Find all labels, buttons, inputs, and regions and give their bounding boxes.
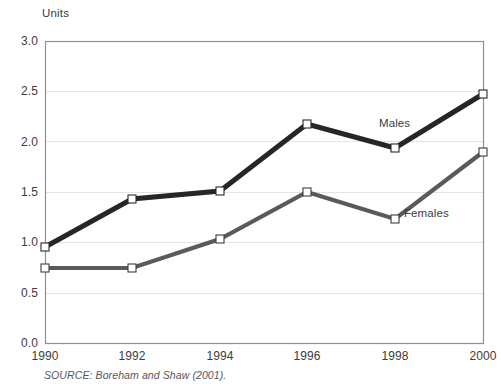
line-chart: Units 3.0 2.5 2.0 1.5 1.0 0.5 0.0	[0, 0, 501, 388]
x-tick-label-1996: 1996	[282, 349, 332, 363]
x-tick-label-1992: 1992	[107, 349, 157, 363]
gridlines	[46, 92, 484, 294]
series-label-males: Males	[379, 117, 410, 129]
x-tick-label-1994: 1994	[195, 349, 245, 363]
x-tick-label-1990: 1990	[20, 349, 70, 363]
plot-area	[0, 0, 501, 388]
series-males	[41, 90, 487, 251]
x-tick-label-1998: 1998	[370, 349, 420, 363]
x-tick-label-2000: 2000	[458, 349, 501, 363]
series-label-females: Females	[404, 207, 449, 219]
source-note: SOURCE: Boreham and Shaw (2001).	[44, 369, 226, 381]
